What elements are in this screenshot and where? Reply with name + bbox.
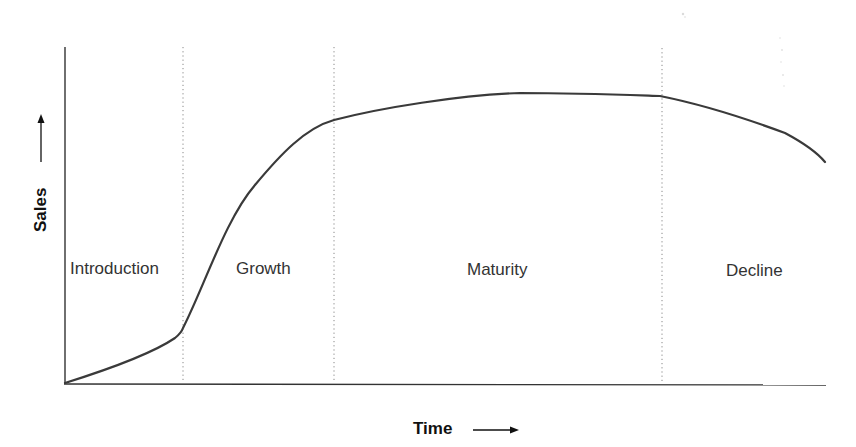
product-life-cycle-chart: Introduction Growth Maturity Decline Sal… [0, 0, 856, 447]
stage-label-introduction: Introduction [70, 259, 159, 278]
x-axis [64, 384, 826, 385]
y-axis-label: Sales [31, 188, 50, 232]
scan-artifacts [682, 13, 785, 87]
sales-curve [65, 93, 825, 383]
y-axis-arrow-icon [38, 114, 45, 162]
stage-label-maturity: Maturity [467, 260, 528, 279]
x-axis-arrow-icon [473, 427, 519, 434]
stage-label-decline: Decline [726, 261, 783, 280]
x-axis-label: Time [413, 419, 452, 438]
stage-label-growth: Growth [236, 259, 291, 278]
